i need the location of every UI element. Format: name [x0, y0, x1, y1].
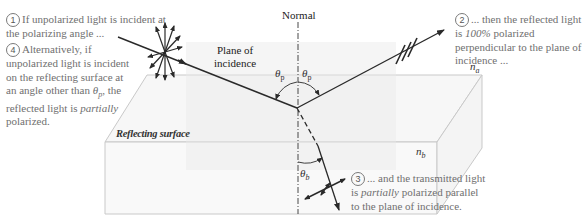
plane-of-incidence-label: Plane of incidence	[214, 44, 256, 70]
note-4: 4Alternatively, if unpolarized light is …	[6, 43, 131, 129]
note-1-number-badge: 1	[6, 13, 20, 27]
note-4-symbol: θp	[93, 84, 102, 96]
note-4-suffix: polarized.	[6, 115, 50, 127]
note-2: 2... then the reflected light is 100% po…	[455, 13, 587, 68]
reflecting-surface-label: Reflecting surface	[116, 128, 190, 139]
normal-label: Normal	[282, 9, 316, 22]
note-2-emphasis: 100%	[465, 27, 491, 39]
note-3-number-badge: 3	[351, 172, 365, 186]
perpendicular-polarization-icon	[396, 38, 417, 64]
note-4-emphasis: partially	[80, 102, 118, 114]
note-4-number-badge: 4	[6, 43, 20, 57]
note-1-text: If unpolarized light is incident at the …	[6, 13, 166, 39]
theta-p-left-label: θp	[275, 67, 284, 82]
note-2-number-badge: 2	[455, 13, 469, 27]
theta-p-right-label: θp	[302, 67, 311, 82]
note-3-emphasis: partially	[361, 186, 399, 198]
plane-label-line1: Plane of	[214, 44, 256, 57]
note-1: 1If unpolarized light is incident at the…	[6, 13, 166, 41]
theta-b-label: θb	[300, 167, 309, 182]
note-3: 3... and the transmitted light is partia…	[351, 172, 486, 213]
n-b-label: nb	[416, 145, 426, 160]
plane-label-line2: incidence	[214, 57, 256, 70]
